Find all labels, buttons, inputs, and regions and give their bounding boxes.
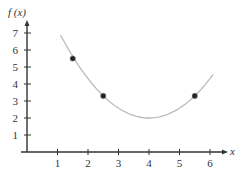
x-axis-arrow-icon [222,150,228,155]
x-tick-label: 6 [207,157,213,169]
function-curve [61,35,213,118]
x-tick-label: 4 [146,157,152,169]
data-points [70,56,197,99]
x-axis-label: x [229,145,235,157]
chart-container: 1234561234567 f (x) x [0,0,246,177]
y-tick-label: 5 [13,61,19,73]
data-point [192,93,197,98]
axes [21,20,228,155]
y-axis-label: f (x) [8,6,26,19]
x-tick-label: 1 [55,157,61,169]
data-point [101,93,106,98]
parabola-chart: 1234561234567 f (x) x [0,0,246,177]
y-tick-label: 2 [13,112,19,124]
tick-labels: 1234561234567 [13,27,214,169]
y-tick-label: 3 [13,95,19,107]
x-tick-label: 3 [116,157,122,169]
y-tick-label: 1 [13,129,19,141]
x-tick-label: 5 [177,157,183,169]
y-axis-arrow-icon [25,20,30,26]
y-tick-label: 6 [13,44,19,56]
y-tick-label: 4 [13,78,19,90]
x-tick-label: 2 [85,157,91,169]
y-tick-label: 7 [13,27,19,39]
data-point [70,56,75,61]
